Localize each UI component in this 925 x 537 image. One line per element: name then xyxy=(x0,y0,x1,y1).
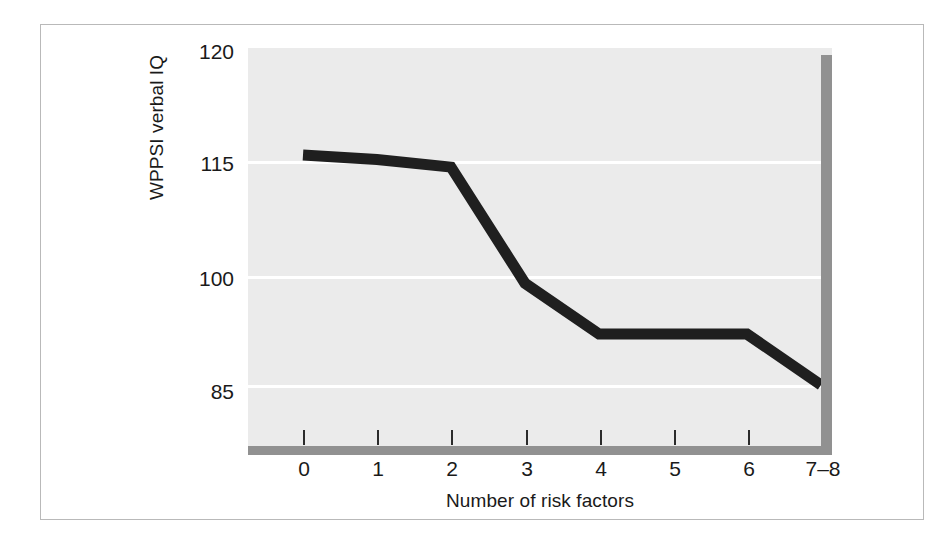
x-tick-label-2: 2 xyxy=(412,458,492,479)
x-tick-label-6: 6 xyxy=(709,458,789,479)
x-tick-label-3: 3 xyxy=(487,458,567,479)
x-axis-title: Number of risk factors xyxy=(248,490,832,512)
x-tick-mark-5 xyxy=(674,430,676,445)
x-tick-mark-0 xyxy=(303,430,305,445)
x-tick-mark-4 xyxy=(600,430,602,445)
figure-root: WPPSI verbal IQ 120 115 100 85 0 1 2 3 4… xyxy=(0,0,925,537)
x-tick-label-5: 5 xyxy=(635,458,715,479)
x-tick-mark-6 xyxy=(748,430,750,445)
x-axis-ticks: 0 1 2 3 4 5 6 7–8 xyxy=(0,0,925,537)
x-tick-mark-2 xyxy=(451,430,453,445)
x-tick-label-1: 1 xyxy=(338,458,418,479)
x-tick-mark-3 xyxy=(526,430,528,445)
x-tick-label-7-8: 7–8 xyxy=(783,458,863,479)
x-tick-mark-1 xyxy=(377,430,379,445)
x-tick-label-4: 4 xyxy=(561,458,641,479)
x-tick-label-0: 0 xyxy=(264,458,344,479)
